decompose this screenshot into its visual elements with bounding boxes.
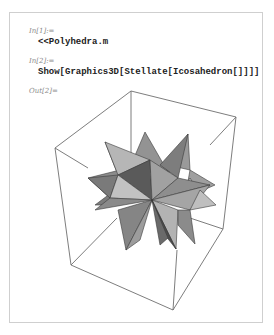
output-graphic[interactable] bbox=[0, 0, 274, 335]
stellated-icosahedron-icon bbox=[88, 132, 216, 250]
